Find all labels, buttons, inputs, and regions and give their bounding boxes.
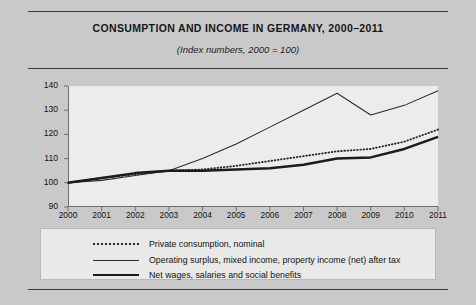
chart-legend: Private consumption, nominal Operating s… xyxy=(40,228,436,280)
header-divider xyxy=(28,68,448,69)
legend-swatch-thick-line-icon xyxy=(93,270,139,280)
chart-series-svg xyxy=(0,78,476,213)
legend-label: Net wages, salaries and social benefits xyxy=(149,270,301,280)
legend-item-private-consumption: Private consumption, nominal xyxy=(93,237,264,251)
legend-item-net-wages: Net wages, salaries and social benefits xyxy=(93,268,301,282)
page-title: CONSUMPTION AND INCOME IN GERMANY, 2000–… xyxy=(0,22,476,34)
top-divider xyxy=(28,11,448,12)
figure-page: CONSUMPTION AND INCOME IN GERMANY, 2000–… xyxy=(0,0,476,305)
legend-swatch-dotted-icon xyxy=(93,239,139,249)
bottom-divider xyxy=(28,289,448,290)
legend-item-operating-surplus: Operating surplus, mixed income, propert… xyxy=(93,253,400,267)
legend-label: Operating surplus, mixed income, propert… xyxy=(149,255,400,265)
legend-label: Private consumption, nominal xyxy=(149,239,264,249)
legend-swatch-thin-line-icon xyxy=(93,255,139,265)
chart-plot-area: 90100110120130140 2000200120022003200420… xyxy=(0,78,476,213)
page-subtitle: (Index numbers, 2000 = 100) xyxy=(0,44,476,55)
